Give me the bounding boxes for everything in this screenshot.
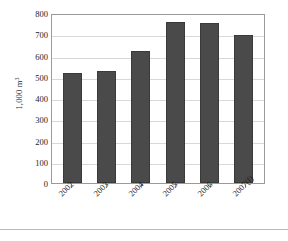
y-axis-tick-label: 800 (20, 10, 48, 19)
bar-slot (158, 15, 192, 183)
bar[interactable] (200, 23, 219, 183)
bar-slot (89, 15, 123, 183)
y-axis-tick-label: 400 (20, 95, 48, 104)
bar-slot (55, 15, 89, 183)
y-axis-tick-label: 700 (20, 31, 48, 40)
y-axis-tick-label: 500 (20, 74, 48, 83)
y-axis-tick-label: 300 (20, 116, 48, 125)
bar[interactable] (97, 71, 116, 183)
y-axis-tick-label: 600 (20, 52, 48, 61)
bar-series (52, 15, 264, 183)
bar-slot (192, 15, 226, 183)
bar[interactable] (234, 35, 253, 183)
bar-chart-figure: 1,000 m3 0100200300400500600700800 20022… (0, 0, 288, 241)
y-axis-tick-labels: 0100200300400500600700800 (20, 14, 48, 184)
y-axis-tick-label: 200 (20, 137, 48, 146)
x-axis-tick-labels: 200220032004200520062007(f) (51, 188, 265, 222)
bar-slot (227, 15, 261, 183)
y-axis-tick-label: 0 (20, 180, 48, 189)
y-axis-title-superscript: 3 (14, 77, 20, 80)
y-axis-tick-label: 100 (20, 159, 48, 168)
plot-area (51, 14, 265, 184)
bar[interactable] (131, 51, 150, 183)
bar-slot (124, 15, 158, 183)
bottom-divider (0, 229, 288, 230)
bar[interactable] (63, 73, 82, 184)
bar[interactable] (166, 22, 185, 183)
